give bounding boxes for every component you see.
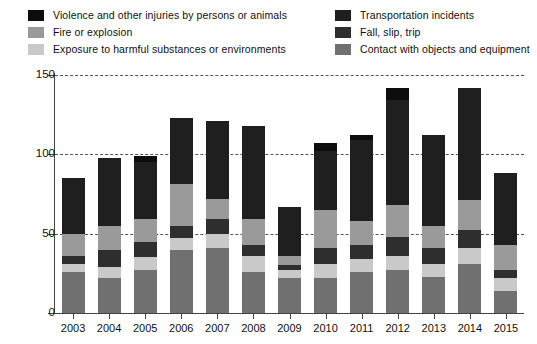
bar-segment-fire-2003 bbox=[62, 234, 85, 256]
bar-segment-exposure-2008 bbox=[242, 256, 265, 272]
x-tick-label-2008: 2008 bbox=[233, 322, 273, 334]
bar-2013 bbox=[422, 0, 445, 313]
bar-segment-transportation-2013 bbox=[422, 135, 445, 225]
bar-segment-contact-2006 bbox=[170, 250, 193, 313]
bar-segment-contact-2011 bbox=[350, 272, 373, 313]
y-tick-50: 50 bbox=[0, 234, 55, 235]
bar-segment-exposure-2009 bbox=[278, 270, 301, 278]
x-tick-label-2009: 2009 bbox=[270, 322, 310, 334]
x-tick-label-2010: 2010 bbox=[306, 322, 346, 334]
bar-segment-contact-2004 bbox=[98, 278, 121, 313]
bar-segment-fire-2005 bbox=[134, 219, 157, 241]
x-tick-mark-2014 bbox=[470, 313, 471, 319]
bar-segment-fall-2013 bbox=[422, 248, 445, 264]
bar-segment-contact-2014 bbox=[458, 264, 481, 313]
bar-segment-contact-2010 bbox=[314, 278, 337, 313]
x-tick-label-2013: 2013 bbox=[414, 322, 454, 334]
bar-segment-fall-2008 bbox=[242, 245, 265, 256]
y-tick-label: 150 bbox=[11, 68, 55, 80]
x-tick-mark-2013 bbox=[434, 313, 435, 319]
x-tick-mark-2011 bbox=[362, 313, 363, 319]
bar-segment-contact-2009 bbox=[278, 278, 301, 313]
bar-segment-contact-2013 bbox=[422, 277, 445, 313]
bar-segment-fall-2014 bbox=[458, 230, 481, 247]
bar-segment-violence-2012 bbox=[386, 88, 409, 101]
bar-segment-exposure-2006 bbox=[170, 238, 193, 249]
bar-segment-exposure-2012 bbox=[386, 256, 409, 270]
bar-2011 bbox=[350, 0, 373, 313]
bar-segment-exposure-2007 bbox=[206, 234, 229, 248]
x-tick-mark-2010 bbox=[326, 313, 327, 319]
bar-segment-fall-2004 bbox=[98, 250, 121, 267]
x-tick-label-2003: 2003 bbox=[53, 322, 93, 334]
bar-segment-fire-2009 bbox=[278, 256, 301, 266]
bar-segment-fall-2010 bbox=[314, 248, 337, 264]
x-tick-label-2012: 2012 bbox=[378, 322, 418, 334]
bar-2008 bbox=[242, 0, 265, 313]
bar-segment-fire-2008 bbox=[242, 219, 265, 244]
x-tick-label-2005: 2005 bbox=[125, 322, 165, 334]
x-tick-mark-2007 bbox=[217, 313, 218, 319]
bar-segment-contact-2007 bbox=[206, 248, 229, 313]
bar-segment-transportation-2004 bbox=[98, 158, 121, 226]
x-tick-label-2014: 2014 bbox=[450, 322, 490, 334]
bar-segment-fire-2013 bbox=[422, 226, 445, 248]
bar-segment-exposure-2004 bbox=[98, 267, 121, 278]
bar-segment-violence-2005 bbox=[134, 156, 157, 162]
bar-segment-exposure-2010 bbox=[314, 264, 337, 278]
bar-segment-transportation-2008 bbox=[242, 126, 265, 220]
bar-2012 bbox=[386, 0, 409, 313]
bar-segment-fall-2005 bbox=[134, 242, 157, 258]
bar-segment-fire-2006 bbox=[170, 184, 193, 225]
x-tick-mark-2009 bbox=[290, 313, 291, 319]
chart-plot-area: 050100150 200320042005200620072008200920… bbox=[0, 0, 537, 344]
y-axis-line bbox=[54, 73, 55, 314]
x-tick-mark-2015 bbox=[506, 313, 507, 319]
bar-segment-transportation-2006 bbox=[170, 118, 193, 185]
y-tick-label: 0 bbox=[11, 306, 55, 318]
bar-2009 bbox=[278, 0, 301, 313]
bar-segment-transportation-2010 bbox=[314, 151, 337, 210]
bar-segment-contact-2005 bbox=[134, 270, 157, 313]
x-tick-label-2011: 2011 bbox=[342, 322, 382, 334]
bar-segment-fire-2015 bbox=[494, 245, 517, 270]
bar-2004 bbox=[98, 0, 121, 313]
y-tick-0: 0 bbox=[0, 313, 55, 314]
bar-2015 bbox=[494, 0, 517, 313]
bar-segment-transportation-2003 bbox=[62, 178, 85, 234]
bar-segment-transportation-2009 bbox=[278, 207, 301, 256]
bar-2007 bbox=[206, 0, 229, 313]
bar-segment-fall-2015 bbox=[494, 270, 517, 278]
x-tick-mark-2005 bbox=[145, 313, 146, 319]
x-tick-mark-2008 bbox=[253, 313, 254, 319]
bar-segment-exposure-2014 bbox=[458, 248, 481, 264]
y-tick-100: 100 bbox=[0, 154, 55, 155]
x-tick-mark-2012 bbox=[398, 313, 399, 319]
x-tick-mark-2004 bbox=[109, 313, 110, 319]
x-tick-label-2007: 2007 bbox=[197, 322, 237, 334]
bar-segment-fire-2010 bbox=[314, 210, 337, 248]
bar-segment-contact-2003 bbox=[62, 272, 85, 313]
bar-segment-contact-2012 bbox=[386, 270, 409, 313]
bar-2005 bbox=[134, 0, 157, 313]
bar-segment-transportation-2012 bbox=[386, 100, 409, 205]
bar-2010 bbox=[314, 0, 337, 313]
bar-segment-fall-2007 bbox=[206, 219, 229, 233]
x-tick-label-2004: 2004 bbox=[89, 322, 129, 334]
bar-segment-transportation-2007 bbox=[206, 121, 229, 199]
bar-segment-fire-2004 bbox=[98, 226, 121, 250]
bar-segment-exposure-2005 bbox=[134, 257, 157, 270]
y-tick-label: 50 bbox=[11, 227, 55, 239]
x-tick-mark-2006 bbox=[181, 313, 182, 319]
bar-segment-exposure-2015 bbox=[494, 278, 517, 291]
bar-2006 bbox=[170, 0, 193, 313]
bar-2014 bbox=[458, 0, 481, 313]
bar-segment-fall-2011 bbox=[350, 245, 373, 259]
bar-segment-contact-2015 bbox=[494, 291, 517, 313]
bar-segment-transportation-2005 bbox=[134, 162, 157, 219]
x-tick-mark-2003 bbox=[73, 313, 74, 319]
bar-segment-fall-2006 bbox=[170, 226, 193, 239]
bar-segment-violence-2011 bbox=[350, 135, 373, 140]
bar-segment-contact-2008 bbox=[242, 272, 265, 313]
bar-segment-fire-2014 bbox=[458, 200, 481, 230]
